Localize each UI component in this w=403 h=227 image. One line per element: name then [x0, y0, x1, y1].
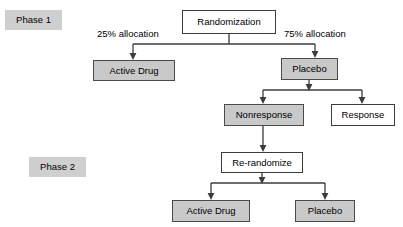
arrowhead-nonresponse: [260, 97, 267, 104]
phase-label-phase-1: Phase 1: [5, 10, 62, 30]
node-phase1-placebo[interactable]: Placebo: [281, 58, 338, 80]
arrowhead-response: [359, 97, 366, 104]
node-nonresponse[interactable]: Nonresponse: [224, 104, 304, 126]
arrowhead-rerandomize: [260, 145, 267, 152]
arrowhead-phase2-placebo: [322, 193, 329, 200]
flowchart-diagram: Phase 1 Phase 2 25% allocation 75% alloc…: [0, 0, 403, 227]
arrowhead-phase2-active-drug: [208, 193, 215, 200]
edge-label-allocation-25: 25% allocation: [97, 29, 159, 39]
node-phase2-placebo[interactable]: Placebo: [295, 200, 355, 222]
node-re-randomize[interactable]: Re-randomize: [221, 152, 303, 173]
arrowhead-phase1-placebo: [312, 51, 319, 58]
node-response[interactable]: Response: [331, 104, 395, 126]
node-phase2-active-drug[interactable]: Active Drug: [172, 200, 250, 222]
node-randomization[interactable]: Randomization: [182, 10, 276, 34]
node-phase1-active-drug[interactable]: Active Drug: [93, 60, 175, 81]
edge-label-allocation-75: 75% allocation: [284, 29, 346, 39]
arrowhead-phase1-active-drug: [130, 53, 137, 60]
phase-label-phase-2: Phase 2: [29, 157, 86, 177]
